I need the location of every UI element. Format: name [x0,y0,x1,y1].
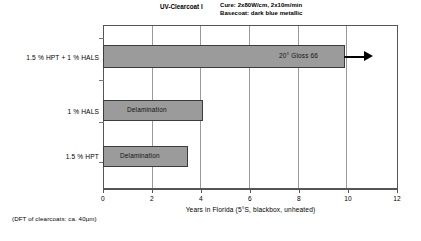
basecoat-text: Basecoat: dark blue metallic [220,10,302,18]
x-tick-label-12: 12 [385,195,409,202]
chart-header: UV-Clearcoat I Cure: 2x80W/cm, 2x10m/min… [160,2,410,24]
x-tick-8 [299,189,300,193]
footnote-text: (DFT of clearcoats: ca. 40µm) [12,215,97,222]
y-category-label-2: 1.5 % HPT [0,153,99,160]
x-tick-0 [103,189,104,193]
chart-figure: UV-Clearcoat I Cure: 2x80W/cm, 2x10m/min… [0,0,421,241]
x-tick-label-2: 2 [140,195,164,202]
gridline-10 [346,26,347,188]
x-tick-12 [397,189,398,193]
x-tick-label-6: 6 [238,195,262,202]
y-category-label-1: 1 % HALS [0,108,99,115]
bar-label-0: 20° Gloss 66 [279,52,318,59]
ongoing-arrow-icon [364,51,373,61]
chart-title: UV-Clearcoat I [160,3,203,11]
x-axis-title: Years in Florida (5°S, blackbox, unheate… [103,206,398,213]
x-tick-2 [152,189,153,193]
y-category-label-0: 1.5 % HPT + 1 % HALS [0,54,99,61]
x-tick-label-8: 8 [287,195,311,202]
y-tick-1 [99,80,104,81]
x-tick-10 [348,189,349,193]
y-tick-0 [99,38,104,39]
x-tick-label-4: 4 [189,195,213,202]
x-tick-label-0: 0 [91,195,115,202]
x-tick-4 [201,189,202,193]
cure-conditions-text: Cure: 2x80W/cm, 2x10m/min [220,2,302,10]
x-tick-6 [250,189,251,193]
bar-label-2: Delamination [120,152,160,159]
x-tick-label-10: 10 [336,195,360,202]
ongoing-arrow-shaft [344,56,366,58]
bar-label-1: Delamination [127,106,167,113]
y-tick-2 [99,122,104,123]
